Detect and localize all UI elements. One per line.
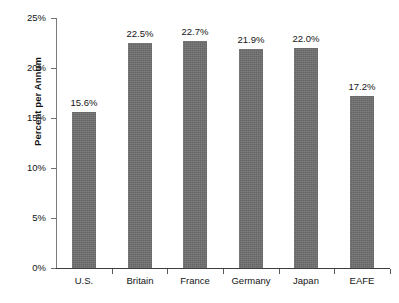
y-axis-tick	[51, 218, 56, 219]
bar-japan	[294, 48, 318, 268]
bar-value-label: 21.9%	[223, 34, 279, 45]
x-axis-tick	[167, 269, 168, 274]
bar-eafe	[350, 96, 374, 268]
x-axis-category-label: Britain	[112, 275, 168, 286]
y-axis-tick-label: 20%	[0, 62, 46, 73]
bar-u-s	[72, 112, 96, 268]
y-axis-tick-label: 15%	[0, 112, 46, 123]
x-axis-tick	[279, 269, 280, 274]
y-axis-tick-label: 25%	[0, 12, 46, 23]
x-axis-tick	[334, 269, 335, 274]
y-axis-tick	[51, 268, 56, 269]
bar-value-label: 17.2%	[334, 81, 390, 92]
bar-value-label: 22.0%	[278, 33, 334, 44]
y-axis-tick	[51, 118, 56, 119]
bar-value-label: 22.7%	[167, 26, 223, 37]
y-axis-tick-label: 10%	[0, 162, 46, 173]
x-axis-category-label: EAFE	[334, 275, 390, 286]
x-axis-category-label: France	[167, 275, 223, 286]
x-axis-tick	[112, 269, 113, 274]
y-axis-tick	[51, 68, 56, 69]
x-axis-category-label: Japan	[278, 275, 334, 286]
y-axis-tick-label: 5%	[0, 212, 46, 223]
x-axis-category-label: U.S.	[56, 275, 112, 286]
bar-value-label: 22.5%	[112, 28, 168, 39]
y-axis-line	[56, 18, 57, 269]
y-axis-tick	[51, 168, 56, 169]
bar-value-label: 15.6%	[56, 97, 112, 108]
bar-france	[183, 41, 207, 268]
y-axis-tick-label: 0%	[0, 262, 46, 273]
y-axis-tick	[51, 18, 56, 19]
y-axis-title: Percent per Annum	[32, 17, 43, 187]
x-axis-tick	[223, 269, 224, 274]
x-axis-tick	[390, 269, 391, 274]
x-axis-category-label: Germany	[223, 275, 279, 286]
bar-chart: Percent per Annum 0%5%10%15%20%25%15.6%U…	[0, 0, 399, 303]
bar-germany	[239, 49, 263, 268]
bar-britain	[128, 43, 152, 268]
